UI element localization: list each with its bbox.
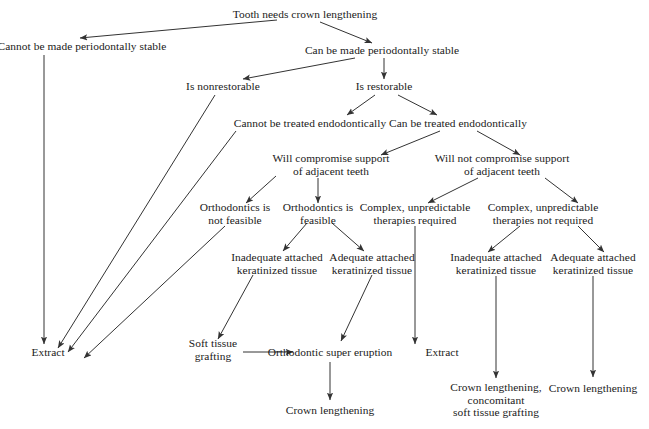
- node-can_endo: Can be treated endodontically: [389, 117, 527, 130]
- flow-arrow: [246, 176, 276, 203]
- flow-arrow: [398, 95, 437, 115]
- node-crown_right: Crown lengthening: [549, 382, 637, 395]
- flowchart-canvas: Tooth needs crown lengtheningCannot be m…: [0, 0, 649, 429]
- node-label-line: Extract: [31, 346, 64, 359]
- flow-arrow: [341, 275, 372, 341]
- node-label-line: Inadequate attached: [450, 251, 542, 264]
- node-label-line: grafting: [189, 350, 237, 363]
- node-label-line: of adjacent teeth: [435, 165, 570, 178]
- node-soft_graft: Soft tissuegrafting: [189, 337, 237, 362]
- node-label-line: Orthodontic super eruption: [268, 346, 393, 359]
- node-inad_kt_right: Inadequate attachedkeratinized tissue: [450, 251, 542, 276]
- flow-arrow: [545, 178, 578, 203]
- flow-arrow: [320, 22, 372, 43]
- node-label-line: of adjacent teeth: [272, 165, 389, 178]
- node-label-line: Is nonrestorable: [186, 80, 260, 93]
- node-complex_req: Complex, unpredictabletherapies required: [360, 201, 471, 226]
- node-label-line: Can be made periodontally stable: [305, 44, 459, 57]
- node-label-line: keratinized tissue: [329, 264, 414, 277]
- node-will_not_comp: Will not compromise supportof adjacent t…: [435, 152, 570, 177]
- flow-arrow: [58, 95, 215, 348]
- node-ortho_yes: Orthodontics isfeasible: [283, 201, 354, 226]
- flow-arrow: [218, 275, 253, 339]
- node-label-line: Is restorable: [356, 80, 413, 93]
- node-label-line: feasible: [283, 214, 354, 227]
- flow-arrow: [68, 131, 236, 352]
- node-nonrestorable: Is nonrestorable: [186, 80, 260, 93]
- flow-arrow: [488, 226, 520, 252]
- node-not_perio: Cannot be made periodontally stable: [0, 40, 166, 53]
- node-label-line: Inadequate attached: [231, 251, 323, 264]
- node-label-line: Adequate attached: [550, 251, 635, 264]
- flow-arrow: [477, 131, 520, 155]
- flow-arrow: [578, 226, 604, 252]
- flow-arrow: [283, 223, 307, 251]
- node-label-line: keratinized tissue: [550, 264, 635, 277]
- node-label-line: therapies required: [360, 214, 471, 227]
- node-crown_concom: Crown lengthening,concomitantsoft tissue…: [450, 381, 541, 419]
- node-ortho_no: Orthodontics isnot feasible: [200, 201, 271, 226]
- node-label-line: Will compromise support: [272, 152, 389, 165]
- node-label-line: Adequate attached: [329, 251, 414, 264]
- node-root: Tooth needs crown lengthening: [233, 8, 378, 21]
- node-label-line: Soft tissue: [189, 337, 237, 350]
- node-label-line: Crown lengthening: [286, 404, 374, 417]
- node-label-line: Cannot be treated endodontically: [234, 117, 386, 130]
- node-adeq_kt_right: Adequate attachedkeratinized tissue: [550, 251, 635, 276]
- node-label-line: keratinized tissue: [231, 264, 323, 277]
- node-can_perio: Can be made periodontally stable: [305, 44, 459, 57]
- flow-arrow: [428, 178, 478, 203]
- node-label-line: Cannot be made periodontally stable: [0, 40, 166, 53]
- node-label-line: Crown lengthening,: [450, 381, 541, 394]
- node-extract_left: Extract: [31, 346, 64, 359]
- node-label-line: keratinized tissue: [450, 264, 542, 277]
- flow-arrow: [332, 223, 364, 251]
- node-label-line: Orthodontics is: [200, 201, 271, 214]
- node-label-line: therapies not required: [488, 214, 599, 227]
- node-label-line: Can be treated endodontically: [389, 117, 527, 130]
- node-restorable: Is restorable: [356, 80, 413, 93]
- flow-arrow: [347, 95, 375, 115]
- node-will_comp: Will compromise supportof adjacent teeth: [272, 152, 389, 177]
- node-label-line: Will not compromise support: [435, 152, 570, 165]
- node-label-line: not feasible: [200, 214, 271, 227]
- node-label-line: soft tissue grafting: [450, 406, 541, 419]
- node-label-line: Extract: [425, 346, 458, 359]
- node-label-line: Complex, unpredictable: [488, 201, 599, 214]
- node-cannot_endo: Cannot be treated endodontically: [234, 117, 386, 130]
- flow-arrow: [381, 131, 440, 155]
- node-label-line: Complex, unpredictable: [360, 201, 471, 214]
- flow-arrow: [243, 58, 355, 79]
- node-adeq_kt_left: Adequate attachedkeratinized tissue: [329, 251, 414, 276]
- node-label-line: concomitant: [450, 394, 541, 407]
- node-crown_left: Crown lengthening: [286, 404, 374, 417]
- node-label-line: Crown lengthening: [549, 382, 637, 395]
- node-complex_not_req: Complex, unpredictabletherapies not requ…: [488, 201, 599, 226]
- node-label-line: Tooth needs crown lengthening: [233, 8, 378, 21]
- node-extract_mid: Extract: [425, 346, 458, 359]
- node-label-line: Orthodontics is: [283, 201, 354, 214]
- node-inad_kt_left: Inadequate attachedkeratinized tissue: [231, 251, 323, 276]
- flow-arrow: [80, 20, 277, 38]
- node-ortho_super: Orthodontic super eruption: [268, 346, 393, 359]
